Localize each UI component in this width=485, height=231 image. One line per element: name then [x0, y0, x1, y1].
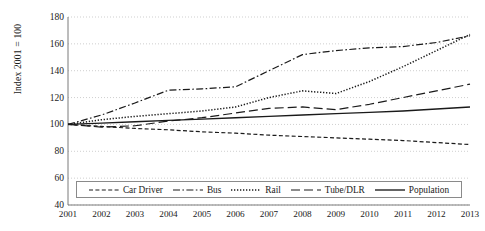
legend-item-tube-dlr[interactable]: Tube/DLR — [291, 185, 365, 195]
data-series-lines — [68, 34, 470, 144]
chart-legend: Car DriverBusRailTube/DLRPopulation — [76, 181, 462, 198]
legend-swatch-dotted-icon — [231, 186, 261, 194]
legend-label: Bus — [207, 185, 221, 195]
legend-swatch-dashed-icon — [89, 186, 119, 194]
legend-label: Population — [409, 185, 449, 195]
legend-swatch-solid-icon — [375, 186, 405, 194]
legend-label: Car Driver — [123, 185, 163, 195]
legend-swatch-dash-dot-icon — [173, 186, 203, 194]
series-line-population — [68, 107, 470, 124]
legend-label: Rail — [265, 185, 281, 195]
legend-item-bus[interactable]: Bus — [173, 185, 221, 195]
series-line-car-driver — [68, 124, 470, 144]
x-axis-tick-labels: 2001200220032004200520062007200820092010… — [0, 209, 485, 227]
legend-item-population[interactable]: Population — [375, 185, 449, 195]
legend-item-rail[interactable]: Rail — [231, 185, 281, 195]
x-axis-tick-label: 2013 — [448, 209, 485, 220]
legend-item-car-driver[interactable]: Car Driver — [89, 185, 163, 195]
legend-swatch-long-dash-icon — [291, 186, 321, 194]
legend-label: Tube/DLR — [325, 185, 365, 195]
line-chart: Index 2001 = 100 180160140120100806040 2… — [0, 0, 485, 231]
